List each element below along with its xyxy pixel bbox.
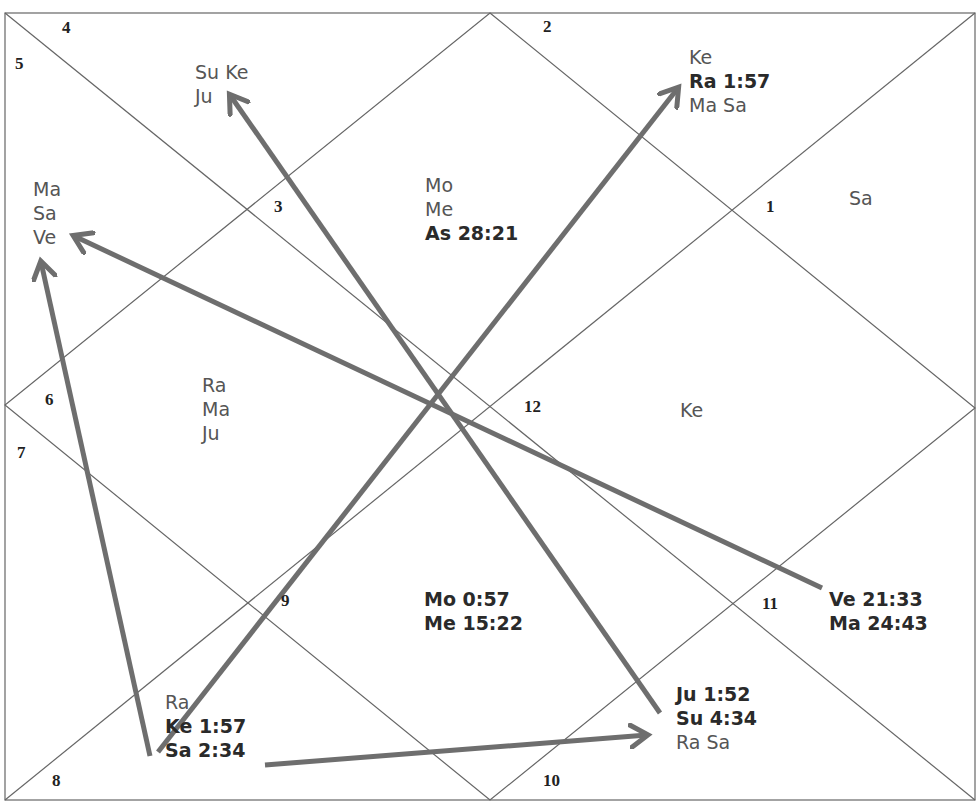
- house-11-planets: Ve 21:33 Ma 24:43: [829, 587, 928, 635]
- planet-label: Sa: [33, 201, 61, 225]
- planet-label: Me: [425, 197, 518, 221]
- arrow-sa-to-ve: [41, 262, 150, 756]
- house-number-3: 3: [274, 197, 283, 217]
- planet-label: Ke: [680, 398, 703, 422]
- planet-label: Ma 24:43: [829, 611, 928, 635]
- planet-label: Ra: [202, 373, 230, 397]
- ascendant-label: As 28:21: [425, 221, 518, 245]
- planet-label: Ju: [195, 84, 248, 108]
- planet-label: Ma: [33, 177, 61, 201]
- planet-label: Sa 2:34: [165, 738, 246, 762]
- planet-label: Mo 0:57: [424, 587, 523, 611]
- arrow-ve-to-ve: [74, 236, 822, 588]
- house-number-7: 7: [17, 443, 26, 463]
- house-1-planets: Sa: [849, 186, 873, 210]
- arrow-ke-to-ra: [158, 88, 678, 752]
- house-number-10: 10: [543, 771, 560, 791]
- house-3-planets: Su Ke Ju: [195, 60, 248, 108]
- planet-label: Ve: [33, 225, 61, 249]
- house-number-12: 12: [524, 397, 541, 417]
- house-9-planets: Mo 0:57 Me 15:22: [424, 587, 523, 635]
- planet-label: Ju 1:52: [676, 682, 757, 706]
- planet-label: Ke 1:57: [165, 714, 246, 738]
- house-number-5: 5: [15, 54, 24, 74]
- house-number-1: 1: [766, 197, 775, 217]
- planet-label: Ve 21:33: [829, 587, 928, 611]
- planet-label: Ma Sa: [689, 93, 770, 117]
- astrology-chart: [0, 0, 977, 809]
- house-10-planets: Ju 1:52 Su 4:34 Ra Sa: [676, 682, 757, 754]
- house-number-9: 9: [281, 591, 290, 611]
- arrow-sa-to-su: [265, 735, 647, 765]
- chart-frame: [5, 13, 975, 800]
- house-6-planets: Ra Ma Ju: [202, 373, 230, 445]
- house-8-planets: Ra Ke 1:57 Sa 2:34: [165, 690, 246, 762]
- planet-label: Su Ke: [195, 60, 248, 84]
- house-number-11: 11: [762, 594, 778, 614]
- house-number-4: 4: [62, 18, 71, 38]
- planet-label: Su 4:34: [676, 706, 757, 730]
- planet-label: Ju: [202, 421, 230, 445]
- planet-label: Ma: [202, 397, 230, 421]
- planet-label: Ra Sa: [676, 730, 757, 754]
- house-5-planets: Ma Sa Ve: [33, 177, 61, 249]
- planet-label: Ra: [165, 690, 246, 714]
- planet-label: Ra 1:57: [689, 69, 770, 93]
- planet-label: Me 15:22: [424, 611, 523, 635]
- house-2-planets: Ke Ra 1:57 Ma Sa: [689, 45, 770, 117]
- house-number-2: 2: [543, 17, 552, 37]
- house-number-8: 8: [52, 771, 61, 791]
- planet-label: Sa: [849, 186, 873, 210]
- house-12-planets: Ke: [680, 398, 703, 422]
- planet-label: Mo: [425, 173, 518, 197]
- house-number-6: 6: [45, 390, 54, 410]
- center-planets: Mo Me As 28:21: [425, 173, 518, 245]
- planet-label: Ke: [689, 45, 770, 69]
